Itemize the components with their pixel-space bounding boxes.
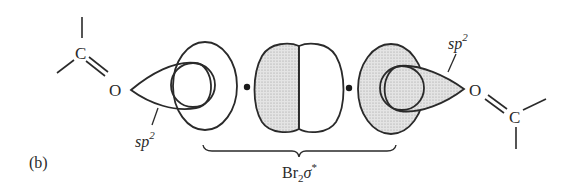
left-c-down-bond: [57, 60, 74, 73]
left-double-bond-b: [86, 61, 105, 76]
left-sp2-label: sp2: [135, 129, 155, 151]
right-sp2-leader: [448, 54, 456, 72]
middle-left-lobe-shaded: [255, 44, 300, 132]
left-carbon-atom: C: [75, 44, 86, 63]
left-inner-circle: [171, 63, 215, 107]
right-br-nucleus-dot: [346, 85, 352, 91]
orbital-diagram: C O sp2 sp2 O C Br2σ* (b): [0, 0, 566, 191]
left-double-bond-a: [89, 57, 108, 72]
left-oxygen-atom: O: [109, 81, 121, 100]
right-carbon-atom: C: [509, 108, 520, 127]
right-double-bond-b: [485, 99, 504, 113]
left-br-nucleus-dot: [244, 84, 250, 90]
br2-sigma-star-label: Br2σ*: [282, 161, 317, 184]
middle-right-lobe: [299, 44, 344, 132]
right-sp2-label: sp2: [448, 31, 468, 53]
right-double-bond-a: [488, 95, 507, 109]
br2-brace: [203, 145, 396, 157]
right-c-up-bond: [523, 99, 546, 110]
figure-label: (b): [29, 154, 48, 172]
right-oxygen-atom: O: [469, 81, 481, 100]
left-sp2-leader: [152, 108, 158, 125]
left-br-lobe: [173, 42, 237, 130]
